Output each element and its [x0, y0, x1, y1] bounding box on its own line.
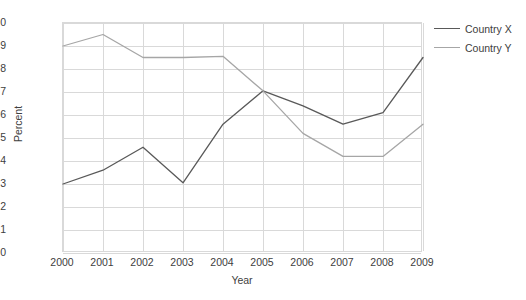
x-axis-title: Year [62, 274, 422, 286]
y-axis-tick-label: 2 [0, 201, 6, 211]
series-line [63, 58, 423, 185]
y-axis-tick-label: 6 [0, 109, 6, 119]
x-axis-tick-label: 2000 [40, 256, 84, 268]
y-axis: 109876543210 [0, 0, 62, 300]
legend: Country XCountry Y [434, 19, 526, 57]
line-chart: 109876543210 Percent Year Country XCount… [0, 0, 526, 300]
series-layer [63, 23, 423, 253]
y-axis-tick-label: 7 [0, 86, 6, 96]
legend-color-swatch [434, 28, 460, 29]
plot-area [62, 22, 422, 252]
x-axis-tick-label: 2004 [200, 256, 244, 268]
y-axis-tick-label: 8 [0, 63, 6, 73]
series-line [63, 35, 423, 157]
x-axis-tick-label: 2007 [320, 256, 364, 268]
legend-item[interactable]: Country X [434, 19, 526, 38]
gridline-horizontal [63, 253, 421, 254]
y-axis-tick-label: 9 [0, 40, 6, 50]
x-axis-tick-label: 2003 [160, 256, 204, 268]
y-axis-tick-label: 10 [0, 17, 6, 27]
y-axis-tick-label: 1 [0, 224, 6, 234]
y-axis-tick-label: 4 [0, 155, 6, 165]
y-axis-tick-label: 0 [0, 247, 6, 257]
x-axis-tick-label: 2001 [80, 256, 124, 268]
y-axis-title: Percent [12, 84, 24, 164]
x-axis-tick-label: 2008 [360, 256, 404, 268]
legend-item[interactable]: Country Y [434, 38, 526, 57]
x-axis-tick-label: 2009 [400, 256, 444, 268]
x-axis-tick-label: 2006 [280, 256, 324, 268]
y-axis-tick-label: 3 [0, 178, 6, 188]
x-axis-tick-label: 2002 [120, 256, 164, 268]
x-axis-tick-label: 2005 [240, 256, 284, 268]
legend-color-swatch [434, 47, 460, 48]
legend-label: Country Y [465, 42, 512, 54]
legend-label: Country X [465, 23, 512, 35]
y-axis-tick-label: 5 [0, 132, 6, 142]
